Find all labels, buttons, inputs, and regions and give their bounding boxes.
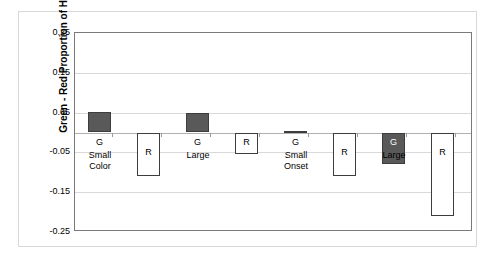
group-label-small-onset-line1: Small xyxy=(277,150,315,161)
bar-1-green-small-color[interactable] xyxy=(88,112,111,133)
gridline-0.15 xyxy=(75,73,471,74)
bar-3-green-large-color[interactable] xyxy=(186,113,209,133)
y-tick--0.25: -0.25 xyxy=(4,227,70,236)
x-tick-3 xyxy=(259,133,260,137)
y-tick-0.15: 0.15 xyxy=(4,68,70,77)
x-tick-6 xyxy=(406,133,407,137)
bar-5-green-small-onset[interactable] xyxy=(284,131,307,133)
y-tick--0.15: -0.15 xyxy=(4,187,70,196)
group-label-large-onset-line1: Large xyxy=(375,150,413,161)
zero-line xyxy=(75,133,471,134)
bar-label-8: R xyxy=(431,147,454,157)
y-tick-0.05: 0.05 xyxy=(4,108,70,117)
bar-label-1: G xyxy=(88,137,111,147)
group-label-small-color-line1: Small xyxy=(81,150,119,161)
group-label-large-color-line1: Large xyxy=(179,150,217,161)
bar-8-red-large-onset[interactable] xyxy=(431,133,454,217)
x-tick-2 xyxy=(210,133,211,137)
y-tick--0.05: -0.05 xyxy=(4,147,70,156)
gridline-0.05 xyxy=(75,113,471,114)
bar-label-2: R xyxy=(137,147,160,157)
x-tick-7 xyxy=(455,133,456,137)
gridline--0.15 xyxy=(75,192,471,193)
bar-label-5: G xyxy=(284,137,307,147)
bar-label-7: G xyxy=(382,137,405,147)
x-tick-5 xyxy=(357,133,358,137)
x-tick-4 xyxy=(308,133,309,137)
bar-label-3: G xyxy=(186,137,209,147)
bar-label-4: R xyxy=(235,137,258,147)
bar-label-6: R xyxy=(333,147,356,157)
x-tick-0 xyxy=(112,133,113,137)
y-tick-0.25: 0.25 xyxy=(4,28,70,37)
chart-container: Green - Red Proportion of Hits 0.25 0.15… xyxy=(0,0,495,264)
group-label-small-onset-line2: Onset xyxy=(277,161,315,172)
x-tick-1 xyxy=(161,133,162,137)
y-axis-tick-labels: 0.25 0.15 0.05 -0.05 -0.15 -0.25 xyxy=(0,32,70,231)
group-label-small-color-line2: Color xyxy=(81,161,119,172)
plot-area: G R G R G R G R Small Color Large Small … xyxy=(74,32,472,231)
